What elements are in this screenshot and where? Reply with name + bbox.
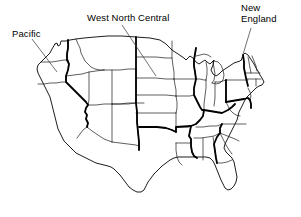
iowa-missouri-border bbox=[176, 95, 194, 96]
pacific-mountain-division-boundary bbox=[66, 40, 88, 127]
wnc-enc-division-boundary bbox=[189, 48, 204, 158]
midatlantic-southatlantic-boundary bbox=[226, 98, 251, 108]
annotation-label-new-england-line1: New bbox=[241, 2, 260, 13]
kansas-missouri-border bbox=[176, 96, 177, 113]
illinois-indiana-border bbox=[204, 80, 206, 110]
california-arizona-border bbox=[77, 127, 87, 138]
leader-line-west-north-central bbox=[122, 25, 156, 76]
kentucky-tennessee-border bbox=[196, 124, 222, 127]
annotation-label-new-england-line2: England bbox=[241, 13, 277, 24]
wisconsin-michigan-upper bbox=[196, 54, 211, 57]
southdakota-nebraska-border bbox=[136, 78, 174, 79]
nebraska-iowa-border bbox=[174, 79, 176, 96]
ohio-northern-border bbox=[215, 80, 226, 82]
leader-line-pacific bbox=[32, 39, 57, 72]
newengland-midatlantic-boundary bbox=[243, 55, 248, 86]
nebraska-kansas-border bbox=[136, 95, 176, 96]
montana-wyoming-border bbox=[104, 69, 136, 70]
national-outline-group bbox=[37, 36, 264, 192]
census-division-boundaries-group bbox=[66, 37, 251, 163]
mountain-central-division-boundary bbox=[136, 37, 139, 150]
annotation-label-new-england: NewEngland bbox=[241, 3, 277, 24]
census-division-map-figure: Pacific West North Central NewEngland bbox=[0, 0, 301, 217]
esc-south-atlantic-boundary bbox=[214, 124, 222, 163]
us-map-svg bbox=[0, 0, 301, 217]
dakotas-minnesota-border bbox=[172, 41, 174, 79]
utah-arizona-border bbox=[88, 104, 112, 105]
plains-state-borders-group bbox=[136, 41, 196, 132]
wisconsin-illinois-border bbox=[196, 79, 206, 80]
newhampshire-maine-border bbox=[252, 56, 257, 71]
us-national-outline bbox=[37, 36, 264, 192]
indiana-ohio-border bbox=[214, 82, 215, 106]
newmexico-south-border bbox=[112, 142, 139, 146]
lake-michigan-west-shore bbox=[206, 62, 207, 80]
annotation-label-pacific: Pacific bbox=[12, 29, 41, 40]
northdakota-southdakota-border bbox=[136, 57, 172, 58]
texas-louisiana-border bbox=[176, 143, 182, 165]
nevada-utah-border bbox=[88, 72, 89, 105]
leader-line-new-england bbox=[241, 28, 251, 61]
annotation-label-west-north-central: West North Central bbox=[87, 13, 169, 24]
wnc-wsc-division-boundary bbox=[139, 126, 191, 132]
idaho-nevada-utah-border bbox=[66, 70, 104, 76]
idaho-montana-border bbox=[76, 39, 104, 70]
southcarolina-georgia-border bbox=[220, 133, 232, 154]
arizona-mexico-border bbox=[87, 127, 112, 142]
enc-esc-division-boundary bbox=[204, 104, 235, 113]
washington-oregon-border bbox=[41, 60, 68, 62]
georgia-florida-border bbox=[217, 160, 232, 163]
great-lakes-detail-group bbox=[194, 48, 226, 110]
leader-lines-group bbox=[32, 25, 251, 76]
